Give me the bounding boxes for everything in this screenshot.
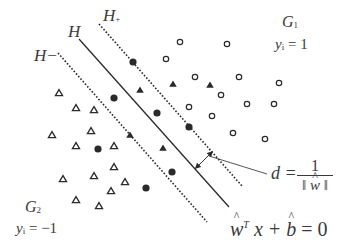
- filled-triangle-point: [206, 81, 214, 87]
- open-circle-point: [244, 101, 249, 106]
- filled-triangle-point: [136, 86, 144, 92]
- h-label: H: [68, 22, 80, 42]
- filled-triangle-point: [126, 131, 134, 137]
- g2-eq-var: y: [16, 220, 23, 236]
- h-plus-main: H: [103, 6, 115, 25]
- open-triangle-point: [59, 176, 66, 182]
- open-triangle-point: [95, 203, 102, 209]
- filled-circle-point: [142, 184, 149, 191]
- h-minus-label: H−: [34, 46, 58, 66]
- open-circle-point: [177, 39, 182, 44]
- g1-sub: 1: [294, 20, 299, 30]
- filled-circle-point: [185, 123, 192, 130]
- h-plus-sub: +: [115, 14, 120, 24]
- margin-distance-arrow: [197, 153, 211, 167]
- filled-triangle-point: [169, 80, 177, 86]
- open-triangle-point: [48, 132, 55, 138]
- open-triangle-point: [107, 188, 114, 194]
- distance-fraction: 1 ‖ w ‖: [297, 158, 333, 194]
- filled-circle-point: [153, 109, 160, 116]
- open-circle-point: [230, 130, 235, 135]
- hyperplane-equation: wT x + b = 0: [230, 218, 328, 241]
- open-circle-point: [262, 136, 267, 141]
- filled-circle-point: [94, 145, 101, 152]
- distance-leader-line: [209, 156, 267, 174]
- open-triangle-point: [90, 173, 97, 179]
- open-circle-point: [209, 113, 214, 118]
- open-circle-point: [192, 74, 197, 79]
- filled-circle-point: [168, 168, 175, 175]
- g1-equation: yi = 1: [275, 36, 308, 53]
- open-circle-point: [163, 56, 168, 61]
- norm-left: ‖: [302, 177, 310, 193]
- filled-triangle-point: [159, 144, 167, 150]
- class-g1-open-circles: [163, 39, 281, 141]
- eq-b-hat: b: [286, 218, 296, 241]
- filled-circle-point: [110, 94, 117, 101]
- distance-lhs: d =: [271, 163, 297, 184]
- g1-main: G: [282, 13, 294, 30]
- open-triangle-point: [55, 90, 62, 96]
- open-circle-point: [224, 41, 229, 46]
- g2-label: G2: [25, 198, 41, 216]
- open-triangle-point: [110, 143, 117, 149]
- eq-x-plus: x +: [249, 218, 286, 240]
- distance-denominator: ‖ w ‖: [297, 177, 333, 194]
- class-g2-open-triangles: [48, 90, 128, 209]
- open-circle-point: [276, 80, 281, 85]
- open-circle-point: [236, 74, 241, 79]
- support-filled-circles: [94, 58, 192, 191]
- open-triangle-point: [72, 105, 79, 111]
- h-hyperplane-line: [79, 39, 229, 207]
- h-plus-label: H+: [103, 6, 120, 26]
- open-circle-point: [218, 92, 223, 97]
- open-triangle-point: [90, 107, 97, 113]
- h-plus-margin-line: [99, 24, 242, 186]
- open-circle-point: [271, 101, 276, 106]
- g1-label: G1: [282, 13, 298, 31]
- open-triangle-point: [87, 128, 94, 134]
- norm-right: ‖: [320, 177, 328, 193]
- filled-circle-point: [129, 58, 136, 65]
- eq-rhs: = 0: [296, 218, 327, 240]
- g1-eq-rhs: = 1: [284, 36, 307, 52]
- g2-main: G: [25, 198, 37, 215]
- eq-w-hat: w: [230, 218, 243, 241]
- open-triangle-point: [72, 197, 79, 203]
- open-triangle-point: [72, 143, 79, 149]
- open-triangle-point: [110, 164, 117, 170]
- g1-eq-var: y: [275, 36, 282, 52]
- g2-eq-rhs: = −1: [25, 220, 57, 236]
- w-hat: w: [310, 177, 320, 194]
- open-circle-point: [186, 104, 191, 109]
- g2-equation: yi = −1: [16, 220, 57, 237]
- g2-sub: 2: [37, 205, 42, 215]
- open-triangle-point: [121, 179, 128, 185]
